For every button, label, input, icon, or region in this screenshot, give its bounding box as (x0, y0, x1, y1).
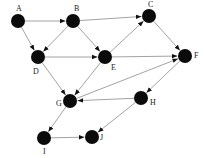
node-label-h: H (150, 98, 156, 107)
edge-e-f (112, 56, 178, 57)
node-label-g: G (56, 99, 62, 108)
edge-d-g (42, 63, 65, 95)
edge-b-c (80, 16, 142, 20)
node-i (37, 131, 51, 145)
node-j (85, 130, 99, 144)
node-label-c: C (148, 0, 153, 9)
node-g (63, 94, 77, 108)
edge-a-d (21, 27, 34, 50)
edge-c-f (154, 21, 180, 50)
node-label-j: J (100, 133, 103, 142)
node-d (31, 50, 45, 64)
directed-graph: ABCDEFGHIJ (0, 0, 205, 158)
node-e (98, 50, 112, 64)
edge-h-g (77, 98, 134, 100)
nodes-layer (11, 9, 192, 145)
node-label-i: I (43, 147, 46, 156)
edge-i-j (51, 137, 85, 138)
edge-h-j (98, 102, 136, 132)
node-b (66, 14, 80, 28)
node-label-a: A (16, 4, 22, 13)
edges-layer (21, 16, 180, 137)
edge-g-f (77, 59, 178, 99)
edge-g-i (48, 107, 66, 132)
node-h (134, 91, 148, 105)
node-f (178, 49, 192, 63)
node-c (142, 9, 156, 23)
edge-f-h (146, 61, 180, 93)
node-label-b: B (74, 4, 79, 13)
edge-b-e (78, 26, 100, 51)
edge-e-c (110, 21, 143, 52)
node-label-d: D (33, 67, 39, 76)
node-a (11, 14, 25, 28)
edge-b-d (43, 26, 68, 52)
node-label-e: E (111, 63, 116, 72)
node-label-f: F (194, 51, 199, 60)
